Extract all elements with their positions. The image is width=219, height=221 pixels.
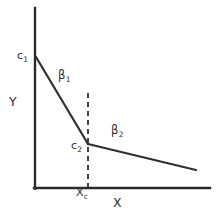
label-slope-beta2-subscript: 2 — [119, 130, 124, 139]
regression-segment-two — [88, 144, 196, 170]
label-changepoint-xc-subscript: c — [84, 192, 88, 201]
x-axis-label: X — [113, 197, 122, 210]
label-intercept-c1: c1 — [17, 50, 28, 61]
label-slope-beta2: β2 — [111, 125, 123, 137]
label-intercept-c2-subscript: 2 — [77, 145, 82, 154]
label-slope-beta1-symbol: β — [58, 68, 65, 82]
label-changepoint-xc-symbol: X — [76, 186, 84, 199]
label-changepoint-xc: Xc — [76, 187, 88, 198]
label-slope-beta1: β1 — [58, 70, 70, 82]
figure-canvas — [0, 0, 219, 221]
piecewise-regression-figure: c1 β1 Y c2 β2 Xc X — [0, 0, 219, 221]
label-intercept-c1-subscript: 1 — [23, 55, 28, 64]
label-slope-beta2-symbol: β — [111, 123, 118, 137]
y-axis-label: Y — [9, 96, 17, 109]
label-slope-beta1-subscript: 1 — [66, 75, 71, 84]
label-intercept-c2: c2 — [71, 140, 82, 151]
